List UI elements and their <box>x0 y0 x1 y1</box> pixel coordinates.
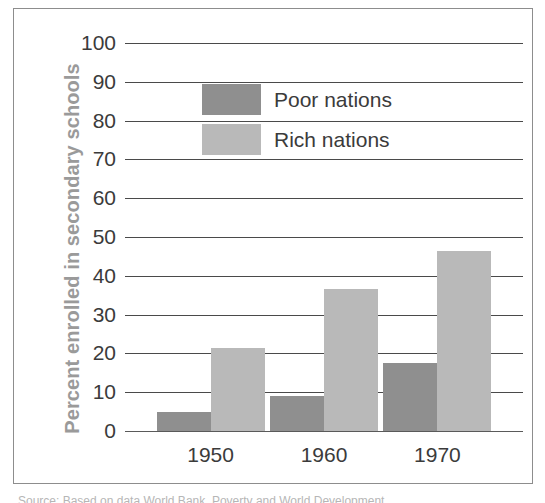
legend-label: Rich nations <box>274 128 390 152</box>
bar-1960-rich-nations <box>324 289 378 431</box>
y-tick-label: 70 <box>93 147 116 171</box>
x-tick-label-1950: 1950 <box>187 443 234 467</box>
y-tick-label: 20 <box>93 341 116 365</box>
y-tick-label: 90 <box>93 70 116 94</box>
y-tick-label: 0 <box>104 419 116 443</box>
y-tick-label: 60 <box>93 186 116 210</box>
y-tick-label: 30 <box>93 303 116 327</box>
gridline <box>125 43 523 44</box>
x-axis-baseline <box>125 431 523 432</box>
y-tick-label: 50 <box>93 225 116 249</box>
legend-label: Poor nations <box>274 88 392 112</box>
y-tick-label: 100 <box>81 31 116 55</box>
gridline <box>125 237 523 238</box>
chart-legend: Poor nationsRich nations <box>202 83 422 163</box>
legend-swatch-icon <box>202 84 261 115</box>
bar-1950-rich-nations <box>211 348 265 431</box>
bar-1970-poor-nations <box>383 363 437 431</box>
x-tick-label-1970: 1970 <box>414 443 461 467</box>
y-tick-label: 40 <box>93 264 116 288</box>
y-tick-label: 10 <box>93 380 116 404</box>
legend-item-poor-nations: Poor nations <box>202 83 422 116</box>
bar-1970-rich-nations <box>437 251 491 431</box>
x-tick-label-1960: 1960 <box>301 443 348 467</box>
figure-caption: Source: Based on data World Bank, Povert… <box>18 494 528 503</box>
y-axis-title: Percent enrolled in secondary schools <box>61 39 84 459</box>
bar-1950-poor-nations <box>157 412 211 431</box>
y-tick-label: 80 <box>93 109 116 133</box>
legend-item-rich-nations: Rich nations <box>202 123 422 156</box>
bar-1960-poor-nations <box>270 396 324 431</box>
gridline <box>125 198 523 199</box>
figure-frame: Percent enrolled in secondary schools 01… <box>13 8 533 484</box>
legend-swatch-icon <box>202 124 261 155</box>
